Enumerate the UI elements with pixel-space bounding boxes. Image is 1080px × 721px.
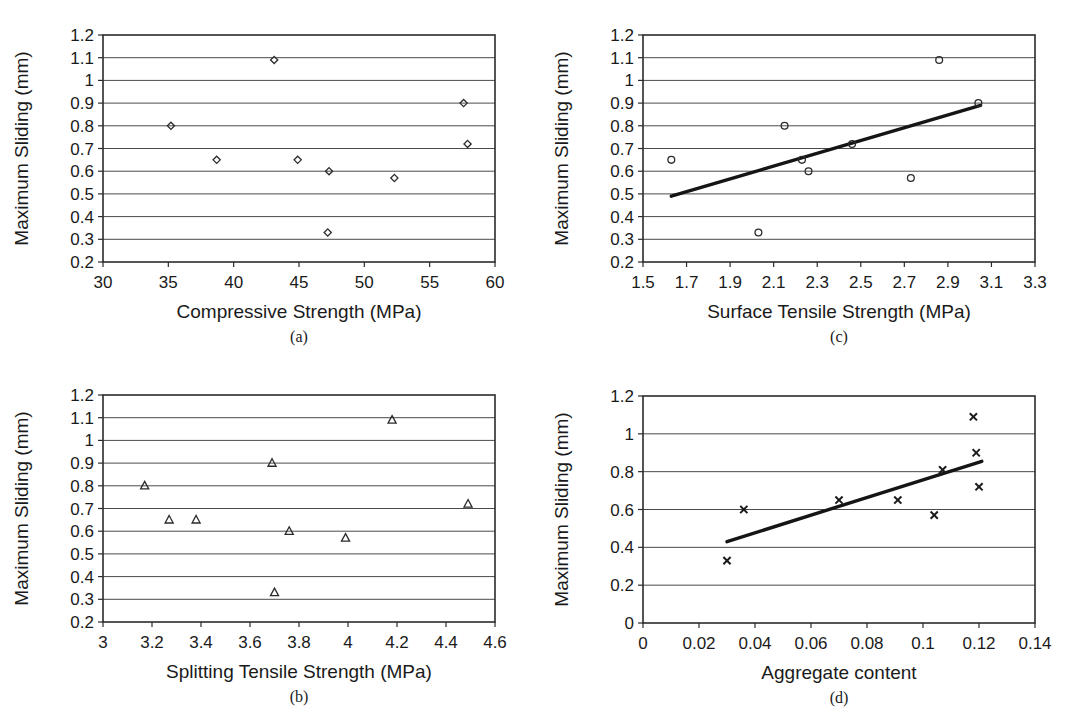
y-tick-label: 1 <box>85 71 94 90</box>
x-tick-label: 4.2 <box>385 633 409 652</box>
x-tick-label: 1.7 <box>675 273 699 292</box>
x-tick-label: 2.7 <box>893 273 917 292</box>
x-axis-c: 1.51.71.92.12.32.52.72.93.13.3 <box>631 262 1047 292</box>
panel-caption-c: (c) <box>830 328 848 346</box>
x-tick-label: 3.1 <box>980 273 1004 292</box>
y-tick-label: 0 <box>625 614 634 633</box>
data-points-b <box>141 416 472 596</box>
data-point <box>668 156 675 163</box>
data-point <box>324 229 331 236</box>
y-axis-c: 0.20.30.40.50.60.70.80.911.11.2 <box>610 26 643 272</box>
data-point <box>464 500 472 508</box>
y-tick-label: 0.9 <box>610 94 634 113</box>
panel-caption-b: (b) <box>290 688 309 706</box>
y-axis-a: 0.20.30.40.50.60.70.80.911.11.2 <box>70 26 103 272</box>
data-point <box>388 416 396 424</box>
y-tick-label: 0.5 <box>610 185 634 204</box>
y-axis-title-b: Maximum Sliding (mm) <box>11 411 32 605</box>
y-tick-label: 0.8 <box>70 477 94 496</box>
data-point <box>294 156 301 163</box>
chart-panel-b: 0.20.30.40.50.60.70.80.911.11.233.23.43.… <box>0 360 540 720</box>
x-tick-label: 0.04 <box>738 634 771 653</box>
data-point <box>931 512 938 519</box>
x-tick-label: 0.14 <box>1018 634 1051 653</box>
x-tick-label: 3.3 <box>1023 273 1047 292</box>
y-tick-label: 1.2 <box>70 26 94 45</box>
data-point <box>268 459 276 467</box>
y-tick-label: 0.5 <box>70 185 94 204</box>
x-tick-label: 0.02 <box>682 634 715 653</box>
data-point <box>907 175 914 182</box>
y-tick-label: 0.5 <box>70 545 94 564</box>
x-tick-label: 45 <box>290 273 309 292</box>
y-tick-label: 1.2 <box>610 387 634 406</box>
data-points-c <box>668 57 982 236</box>
x-tick-label: 50 <box>355 273 374 292</box>
data-point <box>975 483 982 490</box>
trendline-c <box>671 105 980 196</box>
gridlines-a <box>103 58 495 240</box>
y-tick-label: 1.2 <box>610 26 634 45</box>
x-tick-label: 1.5 <box>631 273 655 292</box>
y-tick-label: 0.7 <box>70 140 94 159</box>
y-tick-label: 0.6 <box>70 162 94 181</box>
x-tick-label: 3.2 <box>140 633 164 652</box>
x-tick-label: 0 <box>638 634 647 653</box>
chart-panel-d: 00.20.40.60.811.200.020.040.060.080.10.1… <box>540 361 1080 721</box>
data-point <box>285 527 293 535</box>
y-tick-label: 1.2 <box>70 386 94 405</box>
panel-caption-d: (d) <box>830 689 849 707</box>
chart-svg-c: 0.20.30.40.50.60.70.80.911.11.21.51.71.9… <box>540 0 1080 360</box>
y-tick-label: 0.8 <box>610 463 634 482</box>
data-points-a <box>167 56 471 236</box>
data-point <box>141 481 149 489</box>
y-tick-label: 0.9 <box>70 94 94 113</box>
chart-panel-a: 0.20.30.40.50.60.70.80.911.11.2303540455… <box>0 0 540 360</box>
x-tick-label: 60 <box>486 273 505 292</box>
y-axis-title-d: Maximum Sliding (mm) <box>551 412 572 606</box>
x-tick-label: 2.5 <box>849 273 873 292</box>
y-tick-label: 0.6 <box>610 162 634 181</box>
y-axis-title-c: Maximum Sliding (mm) <box>551 51 572 245</box>
data-point <box>894 496 901 503</box>
y-tick-label: 0.6 <box>610 501 634 520</box>
data-point <box>755 229 762 236</box>
x-axis-title-b: Splitting Tensile Strength (MPa) <box>166 661 432 682</box>
y-tick-label: 0.8 <box>610 117 634 136</box>
chart-svg-a: 0.20.30.40.50.60.70.80.911.11.2303540455… <box>0 0 540 360</box>
y-tick-label: 0.3 <box>610 230 634 249</box>
x-tick-label: 4 <box>343 633 352 652</box>
data-point <box>723 557 730 564</box>
x-axis-title-d: Aggregate content <box>761 662 917 683</box>
y-tick-label: 0.2 <box>610 576 634 595</box>
x-tick-label: 3.8 <box>287 633 311 652</box>
y-tick-label: 0.6 <box>70 522 94 541</box>
y-tick-label: 0.7 <box>610 140 634 159</box>
data-point <box>970 413 977 420</box>
y-tick-label: 1.1 <box>610 49 634 68</box>
x-tick-label: 2.3 <box>805 273 829 292</box>
x-tick-label: 2.1 <box>762 273 786 292</box>
figure-four-panel-scatter: 0.20.30.40.50.60.70.80.911.11.2303540455… <box>0 0 1080 721</box>
data-point <box>192 515 200 523</box>
chart-svg-d: 00.20.40.60.811.200.020.040.060.080.10.1… <box>540 361 1080 721</box>
x-tick-label: 0.06 <box>794 634 827 653</box>
x-tick-label: 2.9 <box>936 273 960 292</box>
y-tick-label: 0.7 <box>70 500 94 519</box>
x-tick-label: 30 <box>94 273 113 292</box>
y-tick-label: 0.4 <box>610 208 634 227</box>
gridlines-d <box>643 434 1035 585</box>
x-tick-label: 55 <box>420 273 439 292</box>
panel-caption-a: (a) <box>290 328 308 346</box>
y-tick-label: 0.3 <box>70 230 94 249</box>
x-tick-label: 3.6 <box>238 633 262 652</box>
x-axis-title-a: Compressive Strength (MPa) <box>177 301 422 322</box>
gridlines-b <box>103 418 495 600</box>
x-axis-title-c: Surface Tensile Strength (MPa) <box>707 301 971 322</box>
data-point <box>835 496 842 503</box>
y-tick-label: 0.2 <box>70 253 94 272</box>
data-point <box>165 515 173 523</box>
y-tick-label: 1 <box>85 431 94 450</box>
data-point <box>270 588 278 596</box>
y-tick-label: 0.4 <box>70 568 94 587</box>
